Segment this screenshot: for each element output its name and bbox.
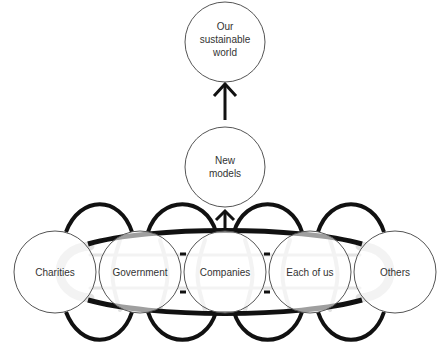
node-sustainable-world: Our sustainable world	[185, 2, 265, 82]
node-label-line: world	[212, 47, 237, 58]
node-companies: Companies	[184, 231, 266, 313]
node-label-line: sustainable	[200, 34, 251, 45]
node-label: Each of us	[286, 267, 333, 278]
node-label-line: Our	[217, 21, 234, 32]
node-new-models: New models	[185, 127, 265, 207]
arrow-to-new-models	[216, 211, 234, 230]
node-label: Others	[380, 267, 410, 278]
node-label: Government	[112, 267, 167, 278]
node-label: Companies	[200, 267, 251, 278]
arrow-to-sustainable-world	[214, 84, 236, 120]
node-label: Charities	[35, 267, 74, 278]
node-each-of-us: Each of us	[269, 231, 351, 313]
node-government: Government	[99, 231, 181, 313]
node-label-line: New	[215, 155, 236, 166]
diagram-canvas: Our sustainable world New models Chariti…	[0, 0, 447, 357]
node-others: Others	[354, 231, 436, 313]
diagram-svg: Our sustainable world New models Chariti…	[0, 0, 447, 357]
node-charities: Charities	[14, 231, 96, 313]
node-label-line: models	[209, 168, 241, 179]
